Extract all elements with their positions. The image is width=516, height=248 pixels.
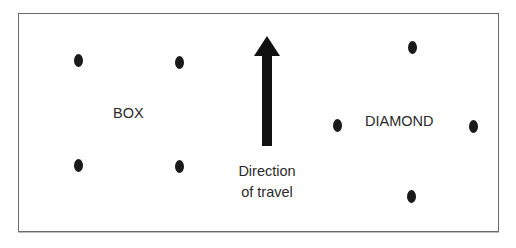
- box-point-rear-left: [74, 159, 83, 172]
- diamond-point-left: [333, 119, 342, 132]
- diamond-point-rear: [407, 190, 416, 203]
- diamond-point-front: [408, 41, 417, 54]
- arrow-up-icon: [250, 34, 284, 148]
- box-point-front-right: [175, 56, 184, 69]
- diamond-point-right: [469, 120, 478, 133]
- box-label: BOX: [113, 105, 144, 121]
- direction-caption-line2: of travel: [207, 182, 327, 203]
- box-point-rear-right: [175, 160, 184, 173]
- box-point-front-left: [74, 54, 83, 67]
- diamond-label: DIAMOND: [365, 113, 433, 129]
- direction-caption-line1: Direction: [207, 161, 327, 182]
